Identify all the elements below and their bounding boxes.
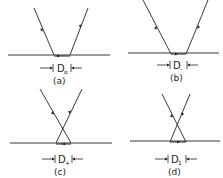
reflected-ray: [56, 89, 82, 143]
reflected-ray: [186, 0, 208, 54]
incident-ray: [143, 0, 171, 54]
incident-ray: [34, 8, 54, 55]
panel-caption: (c): [54, 167, 66, 177]
panel-d: D 1 (d): [130, 94, 220, 177]
diagram-canvas: D o (a) D - (b): [0, 0, 223, 178]
panel-a: D o (a): [8, 8, 110, 86]
dimension-subscript: +: [65, 159, 70, 166]
incident-ray: [40, 89, 71, 143]
dimension-subscript: o: [64, 68, 68, 75]
reflected-ray: [70, 8, 88, 55]
incident-ray: [162, 94, 186, 142]
reflected-ray: [170, 94, 190, 142]
panel-b: D - (b): [128, 0, 219, 83]
arrow-icon: [40, 29, 43, 33]
panel-caption: (d): [168, 167, 181, 177]
panel-c: D + (c): [10, 89, 112, 177]
dimension-subscript: -: [180, 65, 182, 72]
dimension-subscript: 1: [178, 159, 182, 166]
panel-caption: (b): [170, 73, 183, 83]
panel-caption: (a): [53, 76, 66, 86]
